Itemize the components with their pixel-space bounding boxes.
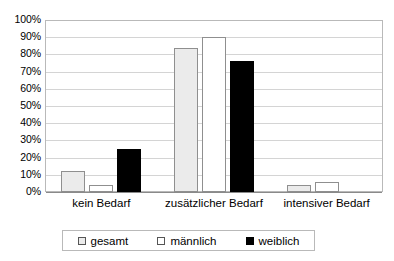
bars-layer — [45, 20, 383, 192]
legend-label: weiblich — [259, 235, 300, 247]
y-axis-tick-label: 90% — [0, 31, 41, 41]
bar — [89, 185, 113, 192]
bar — [230, 61, 254, 192]
bar — [117, 149, 141, 192]
legend-entry: männlich — [157, 235, 216, 247]
bar — [61, 171, 85, 192]
y-axis-tick-label: 10% — [0, 169, 41, 179]
legend-label: gesamt — [91, 235, 129, 247]
axis-baseline — [46, 192, 382, 193]
x-axis-category-labels: kein Bedarfzusätzlicher Bedarfintensiver… — [45, 196, 383, 216]
y-axis: 100%90%80%70%60%50%40%30%20%10%0% — [0, 0, 41, 261]
bar — [315, 182, 339, 192]
bar — [202, 37, 226, 192]
legend-entry: weiblich — [246, 235, 300, 247]
bar — [174, 48, 198, 192]
x-axis-category-label: kein Bedarf — [45, 196, 158, 210]
x-axis-category-label: intensiver Bedarf — [270, 196, 383, 210]
legend-label: männlich — [170, 235, 216, 247]
y-axis-tick-label: 40% — [0, 117, 41, 127]
y-axis-tick-label: 50% — [0, 100, 41, 110]
chart-legend: gesamtmännlichweiblich — [62, 230, 315, 251]
y-axis-tick-label: 60% — [0, 83, 41, 93]
bar — [287, 185, 311, 192]
y-axis-tick-label: 0% — [0, 186, 41, 196]
legend-swatch-maennlich — [157, 237, 165, 245]
x-axis-category-label: zusätzlicher Bedarf — [158, 196, 271, 210]
y-axis-tick-label: 100% — [0, 14, 41, 24]
y-axis-tick-label: 30% — [0, 134, 41, 144]
y-axis-tick-label: 70% — [0, 66, 41, 76]
legend-swatch-gesamt — [78, 237, 86, 245]
bar-chart: 100%90%80%70%60%50%40%30%20%10%0% kein B… — [0, 0, 394, 261]
y-axis-tick-label: 20% — [0, 152, 41, 162]
legend-swatch-weiblich — [246, 237, 254, 245]
y-axis-tick-label: 80% — [0, 48, 41, 58]
legend-entry: gesamt — [78, 235, 129, 247]
